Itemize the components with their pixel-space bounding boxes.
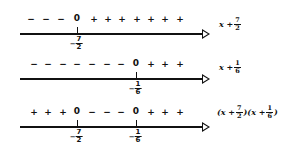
plus-sign: + — [176, 60, 184, 69]
plus-sign: + — [147, 15, 155, 24]
root-tick — [136, 72, 137, 78]
minus-sign: − — [42, 15, 50, 24]
minus-sign: − — [117, 108, 125, 117]
denominator: 6 — [235, 68, 240, 75]
fraction: 16 — [135, 129, 142, 144]
plus-sign: + — [147, 60, 155, 69]
expression-part: )(x + — [244, 107, 266, 117]
number-line — [20, 33, 203, 35]
zero-marker: 0 — [133, 59, 139, 68]
plus-sign: + — [30, 108, 38, 117]
expression-label: x + 72 — [219, 17, 242, 31]
sign-chart-row-1: −−−0+++++++ −72 x + 72 — [0, 0, 291, 50]
plus-sign: + — [118, 15, 126, 24]
plus-sign: + — [104, 15, 112, 24]
denominator: 2 — [237, 113, 242, 120]
arrow-head-icon — [202, 74, 210, 84]
sign-chart-row-3: +++0−−−0+++ −72−16 (x + 72 )(x + 16 ) — [0, 93, 291, 143]
plus-sign: + — [147, 108, 155, 117]
zero-marker: 0 — [133, 107, 139, 116]
fraction: 72 — [236, 105, 243, 119]
sign-chart-row-2: −−−−−−−0+++ −16 x + 16 — [0, 45, 291, 95]
plus-sign: + — [133, 15, 141, 24]
zero-marker: 0 — [74, 107, 80, 116]
expression-part: ) — [274, 107, 278, 117]
arrow-head-icon — [202, 29, 210, 39]
plus-sign: + — [90, 15, 98, 24]
minus-sign: − — [73, 60, 81, 69]
root-tick — [77, 27, 78, 33]
fraction: 16 — [266, 105, 273, 119]
denominator: 6 — [136, 137, 141, 144]
minus-sign: − — [103, 60, 111, 69]
denominator: 2 — [77, 137, 82, 144]
zero-marker: 0 — [74, 14, 80, 23]
arrow-head-icon — [202, 122, 210, 132]
fraction: 16 — [234, 60, 241, 74]
plus-sign: + — [59, 108, 67, 117]
root-label: −16 — [129, 129, 142, 144]
minus-sign: − — [103, 108, 111, 117]
root-tick — [77, 120, 78, 126]
plus-sign: + — [176, 108, 184, 117]
minus-sign: − — [88, 60, 96, 69]
expression-label: (x + 72 )(x + 16 ) — [217, 105, 278, 119]
plus-sign: + — [176, 15, 184, 24]
root-tick — [136, 120, 137, 126]
minus-sign: − — [59, 60, 67, 69]
minus-sign: − — [30, 60, 38, 69]
minus-sign: − — [27, 15, 35, 24]
fraction: 72 — [234, 17, 241, 31]
plus-sign: + — [161, 15, 169, 24]
expression-label: x + 16 — [219, 60, 242, 74]
expression-part: (x + — [217, 107, 235, 117]
denominator: 2 — [235, 25, 240, 32]
expression-prefix: x + — [219, 62, 233, 72]
fraction: 72 — [76, 129, 83, 144]
minus-sign: − — [88, 108, 96, 117]
expression-prefix: x + — [219, 19, 233, 29]
root-label: −72 — [70, 129, 83, 144]
minus-sign: − — [117, 60, 125, 69]
minus-sign: − — [44, 60, 52, 69]
minus-sign: − — [57, 15, 65, 24]
number-line — [20, 78, 203, 80]
denominator: 6 — [267, 113, 272, 120]
plus-sign: + — [44, 108, 52, 117]
plus-sign: + — [161, 60, 169, 69]
number-line — [20, 126, 203, 128]
plus-sign: + — [161, 108, 169, 117]
